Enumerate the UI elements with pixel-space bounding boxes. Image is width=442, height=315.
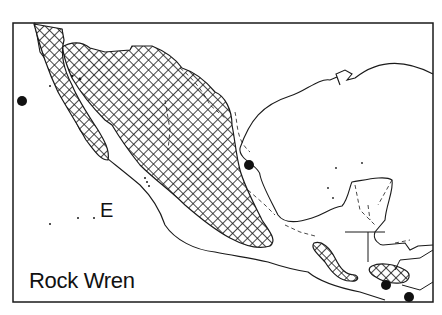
- record-dot-4: [404, 292, 414, 302]
- map-title: Rock Wren: [29, 268, 135, 294]
- region-label: E: [100, 199, 113, 222]
- record-dot-2: [244, 160, 254, 170]
- record-dot-1: [17, 96, 27, 106]
- record-dot-3: [381, 280, 391, 290]
